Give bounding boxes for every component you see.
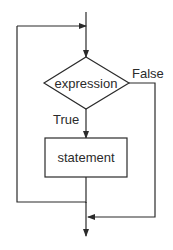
flowchart: expression False True statement: [0, 0, 173, 250]
true-label: True: [53, 112, 79, 127]
statement-label: statement: [57, 150, 114, 165]
condition-label: expression: [55, 76, 118, 91]
false-label: False: [132, 66, 164, 81]
